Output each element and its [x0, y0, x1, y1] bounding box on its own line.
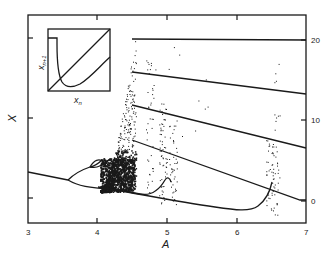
scatter-point — [134, 136, 135, 137]
scatter-point — [175, 126, 176, 127]
scatter-point — [123, 146, 124, 147]
scatter-point — [123, 113, 124, 114]
scatter-point — [130, 123, 131, 124]
x-tick-label: 6 — [235, 228, 240, 237]
scatter-point — [117, 167, 119, 169]
scatter-point — [112, 182, 114, 184]
scatter-point — [171, 187, 172, 188]
scatter-point — [163, 192, 164, 193]
x-axis-label: A — [161, 238, 169, 250]
scatter-point — [127, 174, 129, 176]
scatter-point — [173, 184, 174, 185]
scatter-point — [133, 138, 134, 139]
scatter-point — [126, 99, 127, 100]
scatter-point — [121, 134, 122, 135]
scatter-point — [127, 149, 128, 150]
scatter-point — [135, 79, 136, 80]
scatter-point — [275, 185, 276, 186]
scatter-point — [134, 159, 136, 161]
scatter-point — [177, 152, 178, 153]
scatter-point — [151, 155, 152, 156]
scatter-point — [131, 72, 132, 73]
scatter-point — [136, 168, 138, 170]
scatter-point — [153, 98, 154, 99]
scatter-point — [128, 122, 129, 123]
scatter-point — [273, 186, 274, 187]
scatter-point — [268, 162, 269, 163]
scatter-point — [163, 130, 164, 131]
scatter-point — [129, 125, 130, 126]
scatter-point — [127, 124, 128, 125]
window-line-2 — [132, 72, 306, 94]
inset-y-label: xn+1 — [36, 55, 47, 71]
scatter-point — [147, 160, 148, 161]
scatter-point — [274, 178, 275, 179]
scatter-point — [126, 120, 127, 121]
scatter-point — [135, 133, 136, 134]
scatter-point — [172, 133, 173, 134]
scatter-point — [130, 177, 132, 179]
small-loop-a5 — [140, 178, 171, 195]
scatter-point — [148, 123, 149, 124]
scatter-point — [131, 150, 133, 152]
scatter-point — [177, 181, 178, 182]
scatter-point — [182, 136, 183, 137]
scatter-point — [127, 186, 129, 188]
scatter-point — [122, 121, 123, 122]
scatter-point — [277, 204, 278, 205]
scatter-point — [110, 175, 112, 177]
scatter-point — [161, 203, 162, 204]
scatter-point — [123, 176, 125, 178]
scatter-point — [175, 189, 176, 190]
scatter-point — [135, 62, 136, 63]
scatter-point — [121, 172, 123, 174]
scatter-point — [269, 145, 270, 146]
scatter-point — [266, 174, 267, 175]
scatter-point — [123, 150, 125, 152]
scatter-point — [117, 157, 119, 159]
scatter-point — [117, 169, 119, 171]
scatter-point — [108, 159, 110, 161]
scatter-point — [126, 129, 127, 130]
scatter-point — [120, 186, 122, 188]
scatter-point — [122, 157, 124, 159]
scatter-point — [127, 94, 128, 95]
scatter-point — [132, 147, 133, 148]
scatter-point — [163, 165, 164, 166]
scatter-point — [132, 102, 133, 103]
scatter-point — [122, 154, 124, 156]
scatter-point — [275, 130, 276, 131]
scatter-point — [106, 191, 108, 193]
scatter-point — [160, 180, 161, 181]
scatter-point — [128, 129, 129, 130]
scatter-point — [121, 126, 122, 127]
scatter-point — [130, 94, 131, 95]
scatter-point — [110, 162, 112, 164]
scatter-point — [136, 51, 137, 52]
scatter-point — [174, 126, 175, 127]
scatter-point — [131, 129, 132, 130]
scatter-point — [135, 114, 136, 115]
scatter-point — [275, 173, 276, 174]
scatter-point — [148, 62, 149, 63]
scatter-point — [179, 55, 180, 56]
scatter-point — [161, 156, 162, 157]
scatter-point — [128, 164, 130, 166]
scatter-point — [127, 178, 129, 180]
scatter-point — [132, 91, 133, 92]
scatter-point — [273, 175, 274, 176]
scatter-point — [101, 174, 103, 176]
scatter-point — [150, 69, 151, 70]
scatter-point — [163, 104, 164, 105]
scatter-point — [133, 111, 134, 112]
scatter-point — [173, 157, 174, 158]
scatter-point — [131, 181, 133, 183]
scatter-point — [129, 157, 131, 159]
scatter-point — [170, 174, 171, 175]
scatter-point — [273, 169, 274, 170]
scatter-point — [108, 162, 110, 164]
scatter-point — [278, 116, 279, 117]
scatter-point — [208, 107, 209, 108]
scatter-point — [120, 169, 122, 171]
scatter-point — [129, 132, 130, 133]
